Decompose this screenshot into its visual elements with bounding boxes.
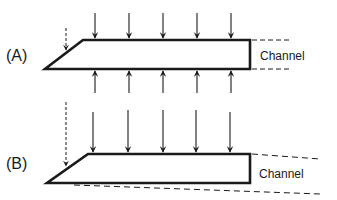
- panel-a-wedge-shape: [45, 40, 250, 69]
- diagram-canvas: (A) Channel (B) Channel: [0, 0, 337, 200]
- panel-a-down-arrows: [95, 13, 231, 38]
- panel-a-label: (A): [6, 47, 27, 64]
- panel-b-label: (B): [6, 155, 27, 172]
- panel-a: (A) Channel: [6, 13, 305, 93]
- panel-a-up-arrows: [95, 71, 231, 93]
- panel-a-channel-label: Channel: [260, 49, 305, 63]
- panel-b-down-arrows: [93, 110, 230, 152]
- panel-b-wedge-shape: [47, 154, 250, 183]
- panel-b-channel-label: Channel: [259, 167, 304, 181]
- panel-b-channel-bottom-dashed: [74, 185, 320, 194]
- panel-b: (B) Channel: [6, 102, 320, 194]
- panel-b-channel-top-dashed: [252, 154, 320, 159]
